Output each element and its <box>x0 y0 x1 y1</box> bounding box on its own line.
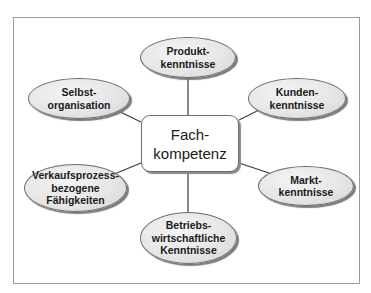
node-selbstorganisation: Selbst- organisation <box>28 78 130 119</box>
node-label: Verkaufsprozess- bezogene Fähigkeiten <box>32 169 119 207</box>
node-label: Betriebs- wirtschaftliche Kenntnisse <box>152 219 226 257</box>
link-markt <box>239 163 272 174</box>
center-node-fachkompetenz: Fach- kompetenz <box>141 115 239 172</box>
node-verkaufsprozess: Verkaufsprozess- bezogene Fähigkeiten <box>24 164 127 212</box>
center-label: Fach- kompetenz <box>153 125 226 163</box>
node-betriebswirtschaftliche-kenntnisse: Betriebs- wirtschaftliche Kenntnisse <box>140 212 237 264</box>
node-marktkenntnisse: Markt- kenntnisse <box>258 166 354 206</box>
node-label: Markt- kenntnisse <box>279 174 334 199</box>
node-label: Produkt- kenntnisse <box>161 45 216 70</box>
node-produktkenntnisse: Produkt- kenntnisse <box>140 37 236 78</box>
node-label: Kunden- kenntnisse <box>270 86 325 111</box>
node-kundenkenntnisse: Kunden- kenntnisse <box>248 78 346 119</box>
node-label: Selbst- organisation <box>47 86 110 111</box>
